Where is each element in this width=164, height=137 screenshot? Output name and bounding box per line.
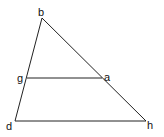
vertex-label-d: d: [6, 120, 12, 132]
vertex-label-h: h: [147, 119, 153, 131]
vertex-label-g: g: [17, 72, 23, 84]
vertex-label-b: b: [38, 6, 44, 18]
vertex-label-a: a: [104, 71, 111, 83]
segment-bh: [42, 18, 146, 121]
triangle-diagram: b g a d h: [0, 0, 164, 137]
segment-bd: [15, 18, 42, 121]
